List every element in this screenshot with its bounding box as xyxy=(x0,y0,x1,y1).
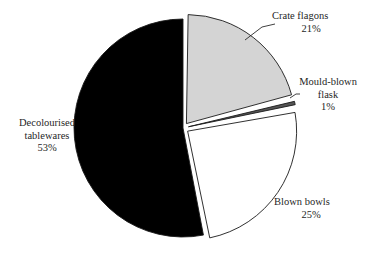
pie-slice-decolourised-tablewares[interactable] xyxy=(74,19,203,237)
pie-label-mould-blown-flask-line1: Mould-blown xyxy=(288,76,368,89)
pie-chart: Decolourised tablewares 53% Crate flagon… xyxy=(0,0,370,255)
pie-label-crate-flagons-name: Crate flagons xyxy=(272,10,366,23)
pie-label-blown-bowls: Blown bowls 25% xyxy=(274,196,362,221)
pie-value-crate-flagons: 21% xyxy=(272,23,350,36)
pie-label-mould-blown-flask: Mould-blown flask 1% xyxy=(288,76,368,114)
pie-label-decolourised-tablewares-line2: tablewares xyxy=(4,130,90,143)
pie-value-decolourised-tablewares: 53% xyxy=(4,142,90,155)
pie-label-crate-flagons: Crate flagons 21% xyxy=(272,10,366,35)
pie-label-decolourised-tablewares: Decolourised tablewares 53% xyxy=(4,117,90,155)
pie-label-mould-blown-flask-line2: flask xyxy=(288,89,368,102)
pie-value-mould-blown-flask: 1% xyxy=(288,101,368,114)
pie-label-blown-bowls-name: Blown bowls xyxy=(274,196,362,209)
pie-value-blown-bowls: 25% xyxy=(274,209,348,222)
pie-label-decolourised-tablewares-line1: Decolourised xyxy=(4,117,90,130)
